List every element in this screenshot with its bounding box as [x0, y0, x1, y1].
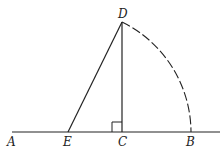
label-a: A	[7, 136, 16, 148]
label-c: C	[118, 136, 127, 148]
arc-db	[122, 22, 191, 132]
diagram: A E C B D	[0, 0, 224, 148]
geometry-figure	[0, 0, 224, 148]
right-angle-mark	[112, 122, 122, 132]
label-d: D	[118, 8, 128, 20]
label-b: B	[186, 136, 195, 148]
label-e: E	[63, 136, 72, 148]
segment-ed	[68, 22, 122, 132]
